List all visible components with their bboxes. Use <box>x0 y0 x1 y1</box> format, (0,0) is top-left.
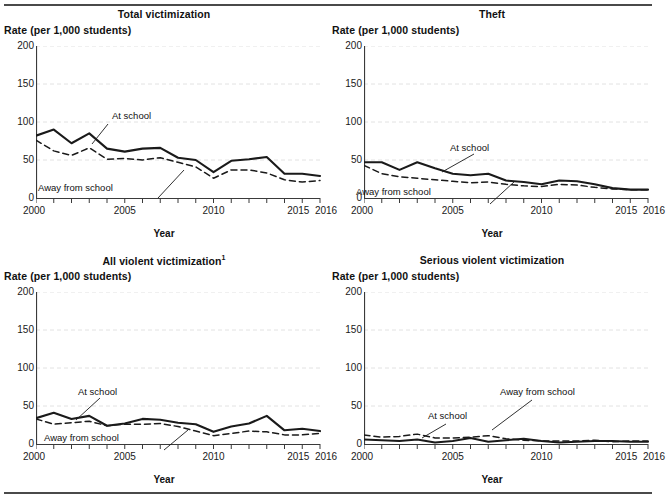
x-axis-tick-label: 2000 <box>14 451 54 462</box>
annotation-away-from-school: Away from school <box>44 432 119 443</box>
x-axis-tick-label: 2010 <box>522 205 562 216</box>
panel-serious-violent-victimization: Serious violent victimization Rate (per … <box>328 252 656 498</box>
y-axis-tick-label: 100 <box>330 362 362 373</box>
chart-svg <box>364 292 652 458</box>
x-axis-title: Year <box>0 474 328 485</box>
x-axis-tick-label: 2005 <box>105 451 145 462</box>
x-axis-tick-label: 2000 <box>14 205 54 216</box>
panel-title-text: Serious violent victimization <box>420 254 565 266</box>
y-axis-tick-label: 100 <box>2 116 34 127</box>
x-axis-tick-label: 2000 <box>342 205 382 216</box>
annotation-leader-line <box>442 154 474 172</box>
y-axis-tick-label: 100 <box>330 116 362 127</box>
y-axis-tick-label: 150 <box>2 78 34 89</box>
x-axis-tick-label: 2005 <box>105 205 145 216</box>
x-axis-title: Year <box>0 228 328 239</box>
annotation-away-from-school: Away from school <box>38 182 113 193</box>
panel-title: Total victimization <box>0 8 328 20</box>
y-axis-tick-label: 50 <box>330 400 362 411</box>
panel-title: All violent victimization1 <box>0 254 328 267</box>
plot-area: 05010015020020002005201020152016At schoo… <box>36 46 320 198</box>
annotation-leader-line <box>158 170 184 198</box>
y-axis-title: Rate (per 1,000 students) <box>4 24 131 36</box>
y-axis-tick-label: 50 <box>2 154 34 165</box>
y-axis-tick-label: 150 <box>330 324 362 335</box>
annotation-at-school: At school <box>428 410 467 421</box>
y-axis-tick-label: 200 <box>330 286 362 297</box>
y-axis-title: Rate (per 1,000 students) <box>332 270 459 282</box>
x-axis-tick-label: 2005 <box>433 205 473 216</box>
annotation-leader-line <box>422 424 446 438</box>
annotation-at-school: At school <box>450 142 489 153</box>
x-axis-title: Year <box>328 228 656 239</box>
y-axis-tick-label: 150 <box>330 78 362 89</box>
annotation-at-school: At school <box>78 386 117 397</box>
y-axis-tick-label: 200 <box>330 40 362 51</box>
y-axis-tick-label: 150 <box>2 324 34 335</box>
y-axis-tick-label: 200 <box>2 286 34 297</box>
annotation-away-from-school: Away from school <box>356 186 431 197</box>
y-axis-tick-label: 50 <box>2 400 34 411</box>
y-axis-tick-label: 50 <box>330 154 362 165</box>
annotation-away-from-school: Away from school <box>500 386 575 397</box>
x-axis-tick-label: 2010 <box>194 451 234 462</box>
annotation-leader-line <box>490 182 514 204</box>
x-axis-tick-label: 2000 <box>342 451 382 462</box>
x-axis-tick-label: 2016 <box>634 451 670 462</box>
panel-theft: Theft Rate (per 1,000 students) 05010015… <box>328 6 656 252</box>
panel-total-victimization: Total victimization Rate (per 1,000 stud… <box>0 6 328 252</box>
plot-area: 05010015020020002005201020152016At schoo… <box>364 46 648 198</box>
annotation-leader-line <box>92 124 108 144</box>
x-axis-tick-label: 2005 <box>433 451 473 462</box>
panel-title-footnote-marker: 1 <box>222 254 226 261</box>
y-axis-title: Rate (per 1,000 students) <box>4 270 131 282</box>
x-axis-title: Year <box>328 474 656 485</box>
x-axis-tick-label: 2016 <box>634 205 670 216</box>
x-axis-tick-label: 2010 <box>194 205 234 216</box>
annotation-leader-line <box>492 400 532 430</box>
y-axis-tick-label: 0 <box>2 192 34 203</box>
y-axis-tick-label: 0 <box>330 438 362 449</box>
panel-title-text: Theft <box>479 8 505 20</box>
panel-title: Serious violent victimization <box>328 254 656 266</box>
annotation-leader-line <box>164 430 188 450</box>
annotation-at-school: At school <box>112 110 151 121</box>
panel-title-text: All violent victimization <box>102 255 221 267</box>
panel-all-violent-victimization: All violent victimization1 Rate (per 1,0… <box>0 252 328 498</box>
x-axis-tick-label: 2010 <box>522 451 562 462</box>
y-axis-tick-label: 0 <box>2 438 34 449</box>
panel-title-text: Total victimization <box>118 8 211 20</box>
panel-title: Theft <box>328 8 656 20</box>
y-axis-tick-label: 200 <box>2 40 34 51</box>
plot-area: 05010015020020002005201020152016At schoo… <box>364 292 648 444</box>
y-axis-title: Rate (per 1,000 students) <box>332 24 459 36</box>
plot-area: 05010015020020002005201020152016At schoo… <box>36 292 320 444</box>
y-axis-tick-label: 100 <box>2 362 34 373</box>
series-line-away-from-school <box>36 140 320 182</box>
